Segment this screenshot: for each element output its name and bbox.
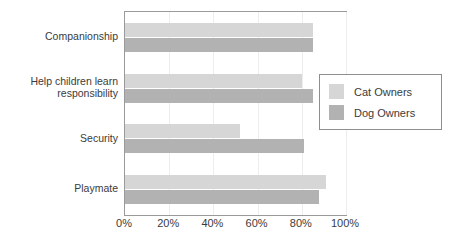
- chart-title: r Particular Reasons: [0, 0, 449, 3]
- category-label-line: Help children learn: [0, 75, 118, 88]
- x-tick-label: 100%: [331, 217, 359, 229]
- bar: [125, 139, 304, 153]
- x-axis-tick-labels: 0%20%40%60%80%100%: [124, 217, 345, 235]
- bars-layer: [125, 12, 346, 215]
- bar: [125, 124, 240, 138]
- x-tick-label: 0%: [116, 217, 132, 229]
- legend-label: Dog Owners: [354, 107, 415, 119]
- legend-label: Cat Owners: [354, 86, 412, 98]
- plot-area: [124, 11, 347, 216]
- x-tick-label: 60%: [246, 217, 268, 229]
- category-axis-labels: CompanionshipHelp children learnresponsi…: [0, 11, 118, 214]
- bar: [125, 190, 319, 204]
- category-label-line: Companionship: [0, 30, 118, 43]
- x-tick-label: 20%: [157, 217, 179, 229]
- x-tick-label: 80%: [290, 217, 312, 229]
- bar-chart: r Particular Reasons CompanionshipHelp c…: [0, 0, 449, 247]
- legend-swatch-icon: [329, 84, 344, 99]
- bar: [125, 89, 313, 103]
- category-label: Security: [0, 132, 118, 145]
- legend-item: Cat Owners: [320, 81, 441, 102]
- bar: [125, 175, 326, 189]
- category-label: Help children learnresponsibility: [0, 75, 118, 100]
- category-label-line: Playmate: [0, 182, 118, 195]
- category-label: Playmate: [0, 182, 118, 195]
- x-tick-label: 40%: [201, 217, 223, 229]
- legend-swatch-icon: [329, 105, 344, 120]
- legend-item: Dog Owners: [320, 102, 441, 123]
- category-label: Companionship: [0, 30, 118, 43]
- bar: [125, 23, 313, 37]
- chart-legend: Cat OwnersDog Owners: [319, 74, 442, 130]
- bar: [125, 38, 313, 52]
- category-label-line: Security: [0, 132, 118, 145]
- bar: [125, 74, 302, 88]
- category-label-line: responsibility: [0, 87, 118, 100]
